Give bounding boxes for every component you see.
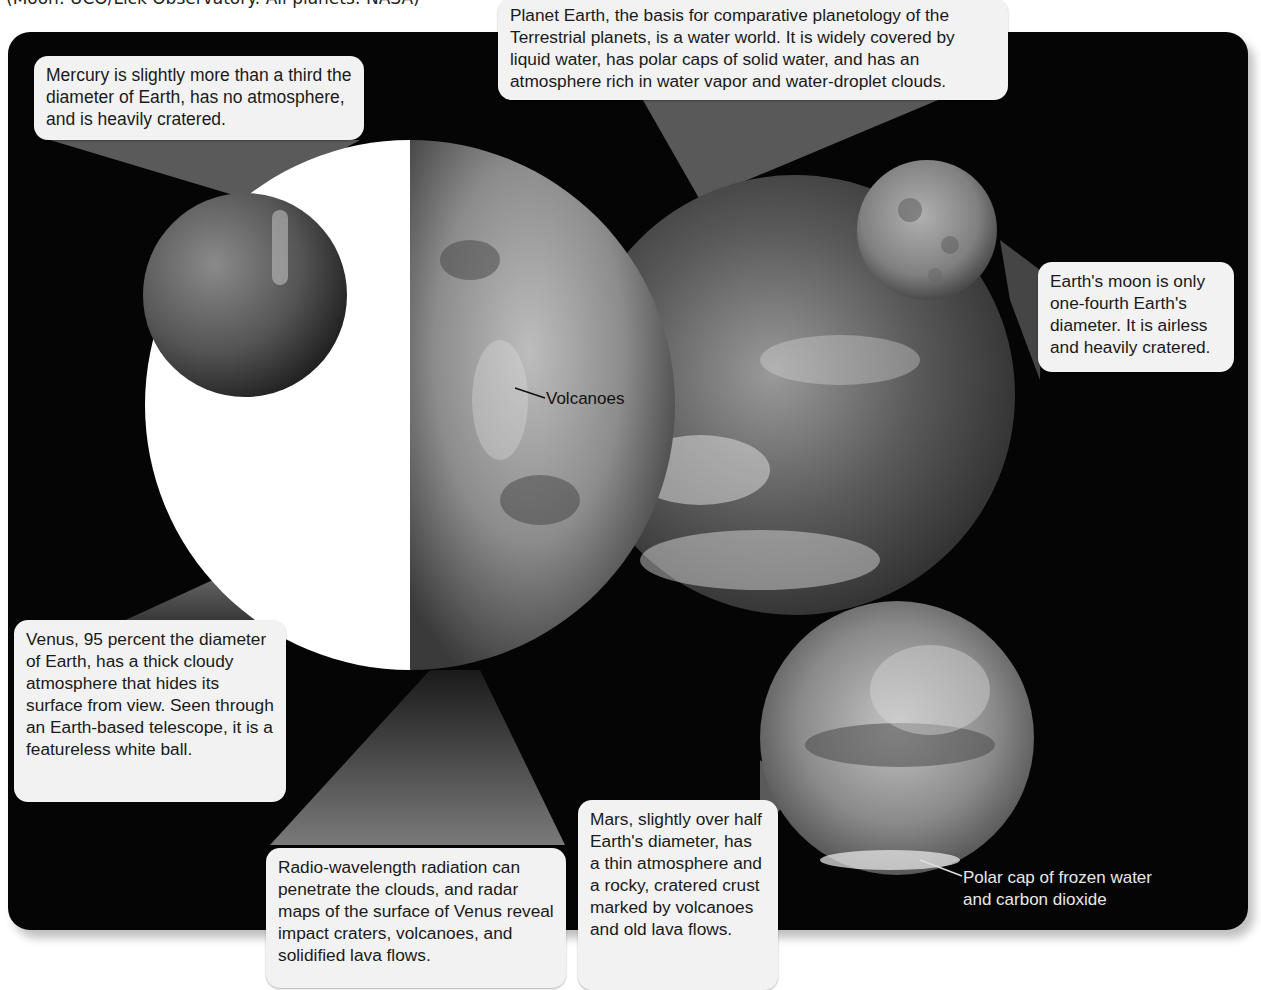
radar-callout: Radio-wavelength radiation can penetrate… bbox=[266, 848, 566, 988]
polar-cap-label-line1: Polar cap of frozen water bbox=[963, 867, 1152, 889]
polar-cap-label-line2: and carbon dioxide bbox=[963, 889, 1152, 911]
volcanoes-label: Volcanoes bbox=[546, 389, 624, 409]
mars-callout-text: Mars, slightly over half Earth's diamete… bbox=[590, 809, 762, 939]
moon-callout: Earth's moon is only one-fourth Earth's … bbox=[1038, 262, 1234, 372]
moon-callout-text: Earth's moon is only one-fourth Earth's … bbox=[1050, 271, 1210, 357]
venus-callout-text: Venus, 95 percent the diameter of Earth,… bbox=[26, 629, 274, 759]
venus-callout: Venus, 95 percent the diameter of Earth,… bbox=[14, 620, 286, 802]
mars-callout: Mars, slightly over half Earth's diamete… bbox=[578, 800, 778, 990]
mercury-callout: Mercury is slightly more than a third th… bbox=[34, 56, 364, 140]
polar-cap-label: Polar cap of frozen water and carbon dio… bbox=[963, 867, 1152, 911]
earth-callout-text: Planet Earth, the basis for comparative … bbox=[510, 5, 955, 91]
mercury-callout-text: Mercury is slightly more than a third th… bbox=[46, 65, 351, 129]
earth-callout: Planet Earth, the basis for comparative … bbox=[498, 0, 1008, 100]
image-credit: (Moon: UCO/Lick Observatory. All planets… bbox=[6, 0, 420, 8]
radar-callout-text: Radio-wavelength radiation can penetrate… bbox=[278, 857, 554, 965]
